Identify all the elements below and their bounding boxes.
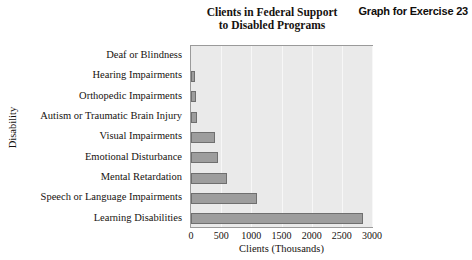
x-tick-label: 500 <box>214 230 229 241</box>
category-label: Mental Retardation <box>101 167 182 187</box>
category-label: Speech or Language Impairments <box>41 187 182 207</box>
chart-figure: Clients in Federal Support to Disabled P… <box>0 0 472 260</box>
bar-row <box>191 148 218 168</box>
chart-title: Clients in Federal Support to Disabled P… <box>196 6 348 32</box>
bar <box>191 193 257 204</box>
y-axis-title: Disability <box>7 93 18 163</box>
gridline <box>372 46 373 227</box>
bar <box>191 152 218 163</box>
bar-row <box>191 168 227 188</box>
bar-row <box>191 127 215 147</box>
x-axis-title: Clients (Thousands) <box>190 243 373 254</box>
bar-row <box>191 188 257 208</box>
category-label: Visual Impairments <box>100 126 182 146</box>
bar <box>191 112 197 123</box>
plot-area <box>190 45 373 228</box>
x-tick-label: 1500 <box>272 230 292 241</box>
bar-row <box>191 209 363 229</box>
x-axis-tick-labels: 050010001500200025003000 <box>190 230 373 244</box>
category-label: Emotional Disturbance <box>85 147 182 167</box>
chart-title-line-1: Clients in Federal Support <box>196 6 348 19</box>
bar-row <box>191 66 195 86</box>
category-label: Hearing Impairments <box>92 65 182 85</box>
category-label: Orthopedic Impairments <box>79 86 182 106</box>
category-axis-labels: Deaf or BlindnessHearing ImpairmentsOrth… <box>0 45 186 228</box>
bar <box>191 213 363 224</box>
bar <box>191 173 227 184</box>
x-tick-label: 0 <box>189 230 194 241</box>
x-tick-label: 2000 <box>302 230 322 241</box>
x-tick-label: 2500 <box>332 230 352 241</box>
category-label: Autism or Traumatic Brain Injury <box>40 106 182 126</box>
chart-title-line-2: to Disabled Programs <box>196 19 348 32</box>
bar-row <box>191 87 196 107</box>
x-tick-label: 3000 <box>362 230 382 241</box>
x-tick-label: 1000 <box>241 230 261 241</box>
bar <box>191 71 195 82</box>
bar-series <box>191 46 372 227</box>
bar <box>191 132 215 143</box>
category-label: Learning Disabilities <box>94 208 182 228</box>
bar <box>191 91 196 102</box>
exercise-caption: Graph for Exercise 23 <box>358 5 468 17</box>
bar-row <box>191 107 197 127</box>
category-label: Deaf or Blindness <box>106 45 182 65</box>
